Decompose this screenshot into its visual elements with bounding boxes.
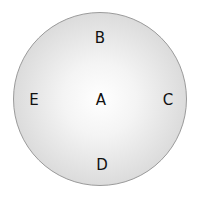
label-center: A	[96, 93, 106, 108]
label-top: B	[95, 31, 105, 46]
label-left: E	[29, 93, 38, 108]
label-bottom: D	[96, 158, 108, 173]
label-right: C	[163, 93, 173, 108]
